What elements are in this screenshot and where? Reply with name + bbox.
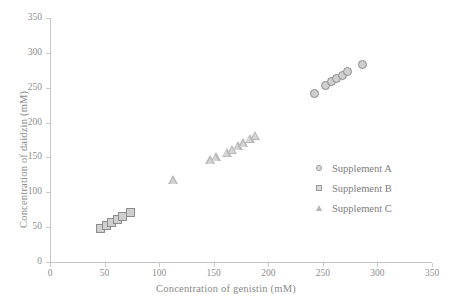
y-tick-mark [46, 157, 50, 158]
y-tick-label: 0 [14, 256, 42, 266]
x-tick-mark [377, 263, 378, 267]
data-point-triangle [250, 131, 260, 140]
legend-item-circle[interactable]: Supplement A [312, 158, 392, 178]
data-point-triangle [168, 175, 178, 184]
x-tick-mark [50, 263, 51, 267]
x-tick-label: 350 [417, 268, 447, 278]
y-tick-mark [46, 123, 50, 124]
y-tick-mark [46, 18, 50, 19]
x-tick-label: 300 [362, 268, 392, 278]
chart-legend: Supplement ASupplement BSupplement C [312, 158, 392, 218]
y-tick-mark [46, 227, 50, 228]
circle-marker-icon [312, 161, 326, 175]
scatter-chart: 050100150200250300350 050100150200250300… [0, 0, 452, 303]
square-marker-icon [312, 181, 326, 195]
triangle-glyph-icon [316, 205, 322, 211]
data-point-circle [310, 89, 319, 98]
legend-item-square[interactable]: Supplement B [312, 178, 392, 198]
data-point-circle [343, 67, 352, 76]
y-axis-title: Concentration of daidzin (mM) [18, 91, 29, 228]
x-tick-label: 200 [253, 268, 283, 278]
y-tick-mark [46, 192, 50, 193]
y-tick-label: 300 [14, 47, 42, 57]
x-tick-label: 50 [90, 268, 120, 278]
legend-item-label: Supplement C [332, 203, 392, 214]
y-tick-label: 350 [14, 12, 42, 22]
x-tick-label: 0 [35, 268, 65, 278]
y-axis-line [50, 18, 51, 262]
x-tick-mark [214, 263, 215, 267]
circle-glyph-icon [316, 165, 322, 171]
legend-item-label: Supplement B [332, 183, 392, 194]
data-point-circle [358, 60, 367, 69]
y-tick-mark [46, 88, 50, 89]
x-tick-label: 100 [144, 268, 174, 278]
x-axis-title: Concentration of genistin (mM) [0, 283, 452, 294]
square-glyph-icon [316, 185, 322, 191]
data-point-triangle [211, 152, 221, 161]
legend-item-triangle[interactable]: Supplement C [312, 198, 392, 218]
y-tick-mark [46, 53, 50, 54]
triangle-marker-icon [312, 201, 326, 215]
x-tick-mark [159, 263, 160, 267]
x-tick-mark [432, 263, 433, 267]
x-tick-mark [323, 263, 324, 267]
data-point-square [126, 208, 135, 217]
x-tick-mark [268, 263, 269, 267]
x-tick-label: 250 [308, 268, 338, 278]
legend-item-label: Supplement A [332, 163, 392, 174]
x-axis-line [50, 262, 432, 263]
x-tick-mark [105, 263, 106, 267]
x-tick-label: 150 [199, 268, 229, 278]
